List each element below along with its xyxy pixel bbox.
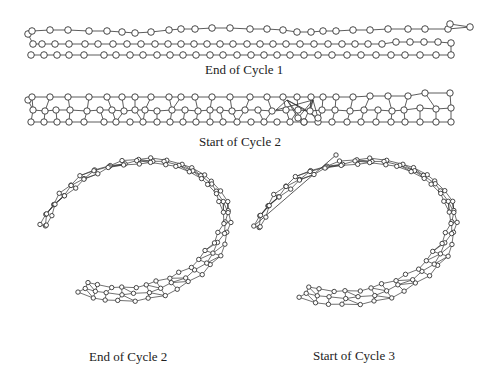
node bbox=[205, 261, 209, 265]
node bbox=[339, 163, 343, 167]
node bbox=[289, 187, 293, 191]
node bbox=[431, 249, 435, 253]
node bbox=[76, 290, 80, 294]
node bbox=[313, 301, 317, 305]
node bbox=[96, 172, 100, 176]
node bbox=[388, 119, 394, 125]
node bbox=[293, 174, 297, 178]
node bbox=[294, 29, 301, 36]
node bbox=[41, 119, 47, 125]
node bbox=[29, 94, 35, 100]
node bbox=[216, 230, 220, 234]
node bbox=[164, 163, 168, 167]
node bbox=[226, 199, 230, 203]
node bbox=[132, 107, 138, 113]
node bbox=[167, 119, 173, 125]
node bbox=[467, 24, 474, 31]
node bbox=[132, 30, 139, 37]
node bbox=[388, 52, 395, 59]
node bbox=[258, 225, 262, 229]
node bbox=[120, 285, 124, 289]
node bbox=[284, 184, 288, 188]
node bbox=[121, 108, 127, 114]
node bbox=[178, 41, 185, 48]
node bbox=[207, 52, 214, 59]
node bbox=[385, 93, 391, 99]
node bbox=[350, 27, 357, 34]
node bbox=[329, 52, 336, 59]
node bbox=[365, 41, 372, 48]
node bbox=[448, 52, 455, 59]
node bbox=[81, 52, 88, 59]
node bbox=[320, 28, 327, 35]
node bbox=[65, 27, 72, 34]
node bbox=[82, 41, 89, 48]
node bbox=[442, 199, 446, 203]
node bbox=[347, 108, 353, 114]
node bbox=[207, 119, 213, 125]
node bbox=[192, 26, 199, 33]
node bbox=[356, 162, 360, 166]
node bbox=[132, 94, 138, 100]
node bbox=[280, 27, 287, 34]
node bbox=[227, 25, 234, 32]
caption-end-of-cycle-2: End of Cycle 2 bbox=[89, 349, 167, 365]
node bbox=[39, 41, 46, 48]
node bbox=[267, 203, 271, 207]
node bbox=[248, 119, 254, 125]
node bbox=[424, 259, 428, 263]
node bbox=[344, 119, 350, 125]
node bbox=[220, 119, 226, 125]
node bbox=[301, 119, 307, 125]
node bbox=[283, 107, 289, 113]
node bbox=[422, 176, 426, 180]
node bbox=[435, 39, 442, 46]
node bbox=[447, 210, 451, 214]
node bbox=[69, 183, 73, 187]
node bbox=[119, 29, 126, 36]
node bbox=[333, 94, 339, 100]
node bbox=[421, 39, 428, 46]
node bbox=[47, 94, 53, 100]
node bbox=[78, 174, 82, 178]
node bbox=[280, 94, 286, 100]
node bbox=[222, 231, 226, 235]
node bbox=[230, 41, 237, 48]
node bbox=[344, 296, 348, 300]
node bbox=[384, 163, 388, 167]
node bbox=[449, 221, 453, 225]
node bbox=[332, 107, 338, 113]
node bbox=[140, 52, 147, 59]
node bbox=[84, 108, 90, 114]
node bbox=[101, 52, 108, 59]
node bbox=[165, 41, 172, 48]
node bbox=[54, 119, 60, 125]
node bbox=[191, 41, 198, 48]
node bbox=[409, 169, 413, 173]
node bbox=[167, 52, 174, 59]
node bbox=[187, 170, 191, 174]
node bbox=[110, 285, 114, 289]
node bbox=[154, 119, 160, 125]
node bbox=[315, 294, 319, 298]
node bbox=[247, 94, 253, 100]
node bbox=[217, 41, 224, 48]
node bbox=[361, 107, 367, 113]
node bbox=[226, 210, 230, 214]
node bbox=[54, 52, 61, 59]
node bbox=[450, 242, 454, 246]
node bbox=[57, 191, 61, 195]
node bbox=[417, 52, 424, 59]
node bbox=[86, 28, 93, 35]
node bbox=[455, 220, 459, 224]
node bbox=[158, 286, 162, 290]
node bbox=[47, 27, 54, 34]
node bbox=[166, 94, 172, 100]
node bbox=[127, 119, 133, 125]
node bbox=[86, 94, 92, 100]
node bbox=[30, 41, 37, 48]
node bbox=[373, 293, 377, 297]
node bbox=[447, 21, 454, 28]
node bbox=[168, 276, 172, 280]
node bbox=[66, 52, 73, 59]
